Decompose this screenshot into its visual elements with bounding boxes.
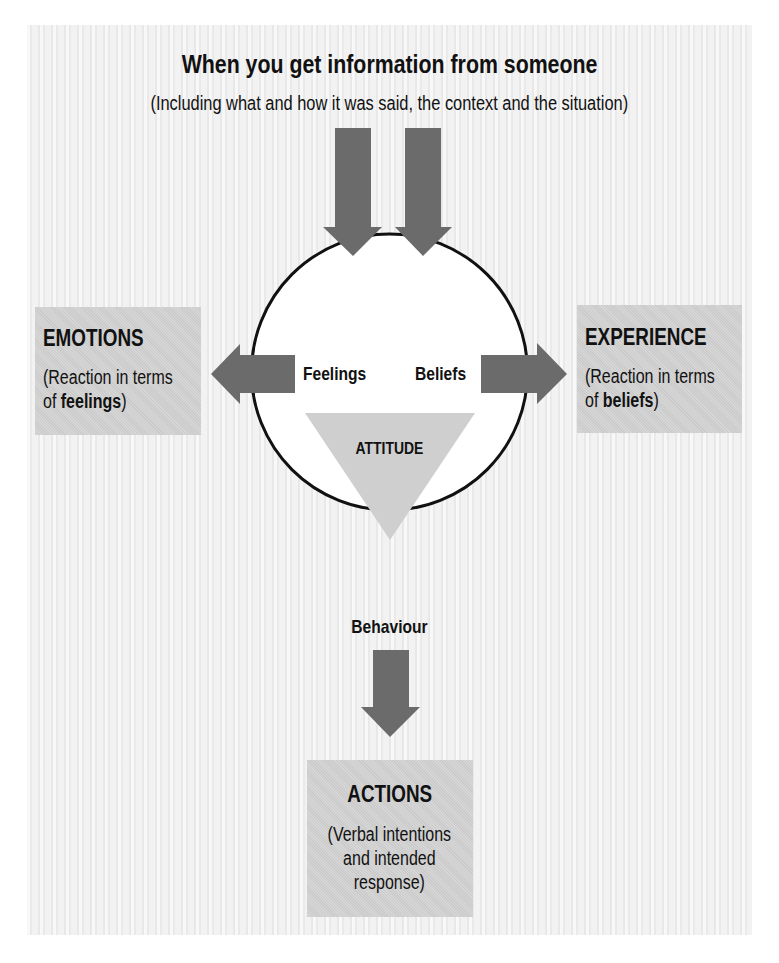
attitude-label: ATTITUDE: [0, 440, 779, 457]
experience-line2-bold: beliefs: [603, 389, 654, 411]
emotions-line2-suffix: ): [121, 390, 126, 412]
actions-line2: and intended: [343, 847, 435, 869]
feelings-label-text: Feelings: [303, 364, 366, 383]
experience-line2-suffix: ): [653, 389, 658, 411]
arrow-down-icon: [361, 650, 420, 737]
emotions-line1: (Reaction in terms: [43, 366, 173, 388]
beliefs-label-text: Beliefs: [415, 364, 466, 383]
experience-line1: (Reaction in terms: [585, 365, 715, 387]
actions-heading-text: ACTIONS: [347, 783, 432, 806]
emotions-line2-bold: feelings: [61, 390, 121, 412]
diagram-shapes: [0, 0, 779, 963]
behaviour-label-text: Behaviour: [351, 617, 427, 636]
experience-line2-prefix: of: [585, 389, 603, 411]
feelings-label: Feelings: [303, 364, 380, 383]
actions-line3: response): [354, 871, 425, 893]
emotions-description: (Reaction in terms of feelings): [43, 365, 201, 413]
experience-heading: EXPERIENCE: [585, 326, 733, 349]
emotions-heading: EMOTIONS: [43, 327, 166, 350]
behaviour-label: Behaviour: [0, 617, 779, 636]
beliefs-label: Beliefs: [415, 364, 477, 383]
actions-description: (Verbal intentions and intended response…: [0, 822, 779, 894]
experience-heading-text: EXPERIENCE: [585, 326, 707, 349]
actions-line1: (Verbal intentions: [328, 823, 452, 845]
emotions-line2-prefix: of: [43, 390, 61, 412]
emotions-heading-text: EMOTIONS: [43, 327, 144, 350]
experience-description: (Reaction in terms of beliefs): [585, 364, 743, 412]
attitude-label-text: ATTITUDE: [356, 440, 424, 457]
actions-heading: ACTIONS: [0, 783, 779, 806]
